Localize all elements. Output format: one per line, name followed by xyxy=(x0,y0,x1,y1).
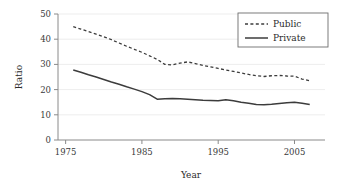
y-tick-label: 50 xyxy=(40,9,51,19)
x-tick-label: 1975 xyxy=(55,147,77,157)
y-tick-label: 30 xyxy=(40,59,51,69)
x-tick-label: 1995 xyxy=(207,147,229,157)
chart-legend: Public Private xyxy=(238,13,328,47)
legend-label-private: Private xyxy=(273,33,306,43)
y-tick-label: 20 xyxy=(40,85,51,95)
x-tick-label: 2005 xyxy=(284,147,306,157)
y-tick-label: 10 xyxy=(40,110,51,120)
chart-figure: 01020304050 1975198519952005 Ratio Year … xyxy=(0,0,340,187)
line-chart: 01020304050 1975198519952005 Ratio Year … xyxy=(0,0,340,187)
y-axis-title: Ratio xyxy=(14,65,24,89)
x-axis-title: Year xyxy=(180,170,202,180)
x-tick-label: 1985 xyxy=(131,147,153,157)
y-tick-label: 0 xyxy=(46,135,51,145)
y-tick-label: 40 xyxy=(40,34,51,44)
legend-label-public: Public xyxy=(273,19,301,29)
